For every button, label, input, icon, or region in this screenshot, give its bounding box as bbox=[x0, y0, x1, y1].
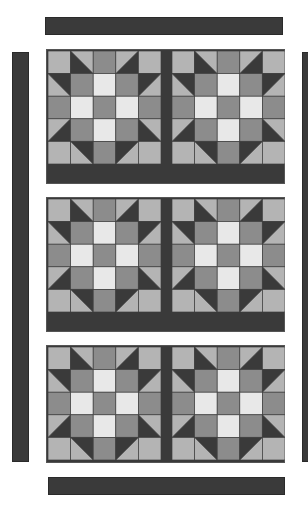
right-border-strip bbox=[302, 52, 308, 462]
top-border-strip bbox=[45, 17, 283, 35]
star-block bbox=[48, 199, 161, 312]
star-block bbox=[172, 51, 285, 164]
bottom-border-strip bbox=[48, 477, 285, 495]
left-border-strip bbox=[12, 52, 29, 462]
star-block bbox=[48, 51, 161, 164]
star-block bbox=[172, 347, 285, 460]
star-block bbox=[172, 199, 285, 312]
star-block bbox=[48, 347, 161, 460]
